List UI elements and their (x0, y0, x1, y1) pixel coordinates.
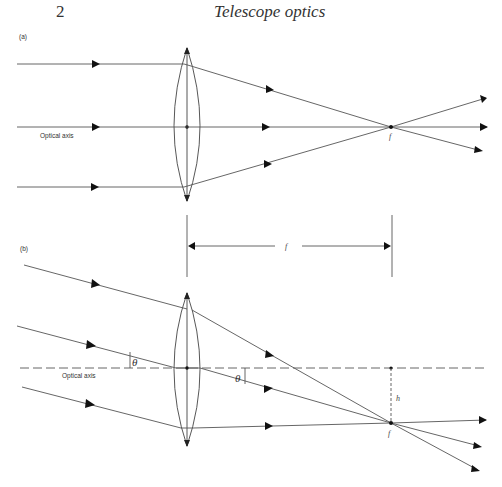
focal-length-dimension: f (187, 215, 392, 277)
theta-label-1: θ (132, 356, 138, 368)
panel-b-label: (b) (20, 245, 28, 253)
refracted-rays-b (192, 310, 391, 430)
optical-axis-label-a: Optical axis (40, 132, 74, 140)
outgoing-rays-a (391, 95, 488, 153)
optical-axis-label-b: Optical axis (62, 372, 96, 380)
focal-point-b (389, 421, 393, 425)
panel-a: (a) (17, 33, 488, 202)
incoming-rays-a (17, 60, 392, 191)
height-label: h (396, 394, 400, 403)
focal-point-label-b: f (388, 429, 392, 438)
telescope-optics-figure: (a) (0, 0, 502, 487)
lens-b (174, 292, 200, 447)
lens-center-point-b (185, 366, 189, 370)
outgoing-rays-b (391, 416, 487, 472)
focal-point-label-a: f (389, 132, 393, 141)
focal-length-label: f (285, 242, 289, 251)
incoming-rays-b (17, 265, 187, 428)
panel-b: (b) Optical axis (17, 245, 487, 472)
lens-a (174, 47, 200, 202)
refracted-rays-a (184, 64, 391, 187)
focal-point-a (389, 125, 393, 129)
theta-label-2: θ (235, 372, 241, 384)
panel-a-label: (a) (19, 33, 27, 41)
